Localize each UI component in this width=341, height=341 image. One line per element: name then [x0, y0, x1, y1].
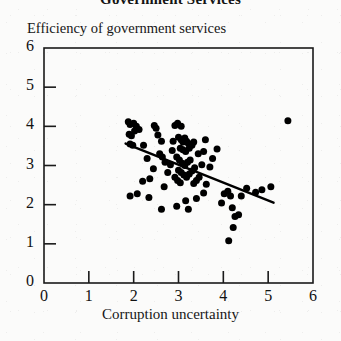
x-tick-label: 2 — [124, 287, 144, 305]
data-point — [139, 178, 146, 185]
x-tick-label: 3 — [169, 287, 189, 305]
data-point — [258, 186, 265, 193]
data-point — [140, 142, 147, 149]
data-point — [178, 123, 185, 130]
y-tick-label: 2 — [14, 194, 34, 212]
data-point — [193, 195, 200, 202]
y-tick-label: 3 — [14, 155, 34, 173]
data-point — [173, 203, 180, 210]
data-point — [190, 139, 197, 146]
data-point — [203, 181, 210, 188]
data-point — [214, 146, 221, 153]
data-point — [238, 193, 245, 200]
x-tick-label: 1 — [79, 287, 99, 305]
scatter-plot-figure: Government Services Efficiency of govern… — [0, 0, 341, 341]
data-point — [145, 194, 152, 201]
x-axis-title: Corruption uncertainty — [0, 306, 341, 323]
data-point — [158, 206, 165, 213]
data-point — [195, 150, 202, 157]
data-point — [136, 126, 143, 133]
x-tick-label: 5 — [258, 287, 278, 305]
data-point — [200, 189, 207, 196]
data-point — [169, 147, 176, 154]
data-point — [146, 175, 153, 182]
data-point — [134, 190, 141, 197]
data-points — [125, 117, 292, 244]
data-point — [206, 164, 213, 171]
data-point — [185, 206, 192, 213]
data-point — [230, 224, 237, 231]
x-tick-label: 4 — [213, 287, 233, 305]
data-point — [182, 197, 189, 204]
axis-ticks — [44, 87, 268, 283]
data-point — [187, 157, 194, 164]
data-point — [267, 183, 274, 190]
data-point — [227, 193, 234, 200]
data-point — [154, 131, 161, 138]
y-tick-label: 5 — [14, 76, 34, 94]
data-point — [144, 155, 151, 162]
y-tick-label: 4 — [14, 115, 34, 133]
data-point — [153, 125, 160, 132]
data-point — [161, 183, 168, 190]
x-tick-label: 6 — [303, 287, 323, 305]
data-point — [164, 169, 171, 176]
data-point — [127, 193, 134, 200]
data-point — [202, 136, 209, 143]
x-tick-label: 0 — [34, 287, 54, 305]
data-point — [284, 117, 291, 124]
data-point — [150, 165, 157, 172]
data-point — [235, 211, 242, 218]
data-point — [198, 161, 205, 168]
data-point — [218, 200, 225, 207]
data-point — [229, 204, 236, 211]
data-point — [209, 155, 216, 162]
y-tick-label: 0 — [14, 272, 34, 290]
data-point — [225, 237, 232, 244]
y-tick-label: 6 — [14, 37, 34, 55]
data-point — [158, 138, 165, 145]
data-point — [177, 179, 184, 186]
y-tick-label: 1 — [14, 233, 34, 251]
